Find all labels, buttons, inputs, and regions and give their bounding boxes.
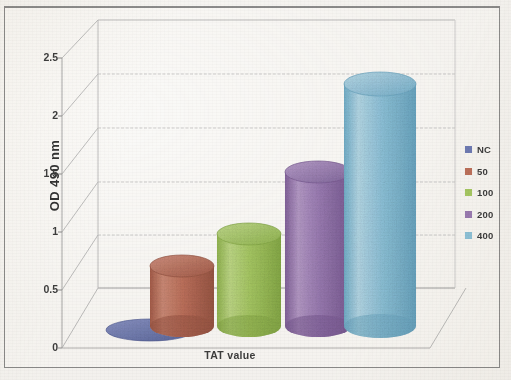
scanned-figure: OD 490 nm 2.5 2 1.5 1 0.5 0 TAT value NC… (0, 0, 511, 380)
bar-400 (344, 72, 416, 338)
chart-svg (0, 0, 511, 380)
legend-label-100: 100 (477, 187, 493, 198)
y-tick-0: 0 (24, 341, 58, 353)
legend-label-50: 50 (477, 166, 488, 177)
bar-200 (285, 161, 351, 337)
y-tick-1-5: 1.5 (24, 167, 58, 179)
y-tick-0-5: 0.5 (24, 283, 58, 295)
y-tick-1: 1 (24, 225, 58, 237)
legend-swatch-50 (465, 168, 472, 175)
bar-50 (150, 255, 214, 337)
legend-item-50: 50 (465, 161, 493, 183)
legend-item-nc: NC (465, 139, 493, 161)
chart-legend: NC 50 100 200 400 (465, 139, 493, 247)
y-tick-2-5: 2.5 (24, 51, 58, 63)
chart-plot-area: OD 490 nm 2.5 2 1.5 1 0.5 0 TAT value NC… (0, 0, 511, 380)
legend-swatch-nc (465, 146, 472, 153)
y-tick-2: 2 (24, 109, 58, 121)
legend-item-200: 200 (465, 204, 493, 226)
bar-100 (217, 223, 281, 337)
y-axis-tick-labels: 2.5 2 1.5 1 0.5 0 (14, 0, 58, 380)
legend-swatch-100 (465, 189, 472, 196)
legend-label-400: 400 (477, 230, 493, 241)
legend-swatch-200 (465, 211, 472, 218)
x-axis-title: TAT value (150, 349, 310, 361)
legend-label-200: 200 (477, 209, 493, 220)
legend-item-400: 400 (465, 225, 493, 247)
legend-item-100: 100 (465, 182, 493, 204)
legend-swatch-400 (465, 232, 472, 239)
legend-label-nc: NC (477, 144, 491, 155)
